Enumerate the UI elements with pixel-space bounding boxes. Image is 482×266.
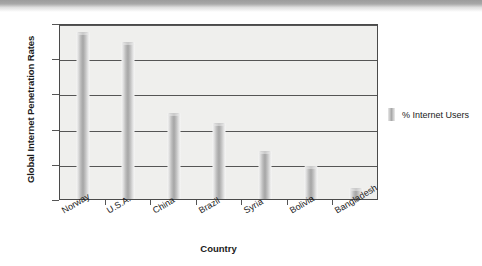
legend-color-swatch: [388, 108, 395, 121]
y-tick-mark: [52, 94, 59, 95]
y-tick-mark: [52, 130, 59, 131]
bar-cap: [76, 32, 89, 35]
bar-slot: [242, 25, 288, 199]
bar-slot: [288, 25, 334, 199]
y-tick-mark: [52, 165, 59, 166]
y-tick-mark: [52, 24, 59, 25]
bar-cap: [213, 123, 226, 126]
x-axis-title: Country: [59, 243, 378, 254]
bar-cap: [304, 166, 317, 169]
bar[interactable]: [76, 32, 89, 199]
x-tick-mark: [241, 200, 242, 205]
bar-slot: [197, 25, 243, 199]
bar-slot: [106, 25, 152, 199]
y-tick-mark: [52, 59, 59, 60]
x-tick-mark: [332, 200, 333, 205]
bar[interactable]: [259, 151, 272, 199]
bar-chart: Global Internet Penetration Rates 0%20%4…: [0, 0, 482, 266]
bars-container: [60, 25, 377, 199]
x-tick-mark: [196, 200, 197, 205]
bar-cap: [167, 113, 180, 116]
y-tick-mark: [52, 200, 59, 201]
x-tick-mark: [105, 200, 106, 205]
y-axis-title: Global Internet Penetration Rates: [25, 10, 36, 210]
bar[interactable]: [122, 42, 135, 199]
bar-slot: [333, 25, 379, 199]
legend-label: % Internet Users: [402, 110, 469, 120]
bar[interactable]: [167, 113, 180, 199]
bar-cap: [122, 42, 135, 45]
x-tick-mark: [287, 200, 288, 205]
plot-area: [59, 24, 378, 200]
bar-slot: [151, 25, 197, 199]
bar-cap: [259, 151, 272, 154]
chart-legend: % Internet Users: [388, 108, 469, 121]
x-tick-mark: [150, 200, 151, 205]
bar[interactable]: [213, 123, 226, 199]
bar-slot: [60, 25, 106, 199]
